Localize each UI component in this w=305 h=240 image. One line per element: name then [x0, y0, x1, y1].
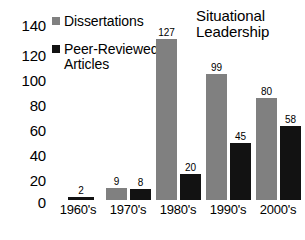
x-label-1980s: 1980's [154, 203, 202, 217]
bar-1970s-dissertations: 9 [106, 188, 127, 200]
x-label-1990s: 1990's [204, 203, 252, 217]
bar-value-1970s-peer-reviewed: 8 [138, 178, 144, 188]
x-label-2000s: 2000's [254, 203, 302, 217]
x-axis: 1960's 1970's 1980's 1990's 2000's [54, 203, 302, 223]
y-tick-60: 60 [0, 123, 46, 138]
y-tick-20: 20 [0, 173, 46, 188]
bar-chart: Situational Leadership 140 120 100 80 60… [0, 0, 305, 240]
bar-value-2000s-peer-reviewed: 58 [285, 115, 296, 125]
y-tick-0: 0 [0, 195, 46, 210]
plot-area: 2 9 8 127 20 99 45 [54, 22, 302, 200]
bar-1980s-dissertations: 127 [156, 39, 177, 200]
bar-1960s-peer-reviewed: 2 [68, 197, 94, 200]
y-axis: 140 120 100 80 60 40 20 0 [0, 0, 52, 240]
y-tick-120: 120 [0, 48, 46, 63]
x-label-1970s: 1970's [104, 203, 152, 217]
bar-1970s-peer-reviewed: 8 [130, 189, 151, 200]
bar-value-1980s-dissertations: 127 [158, 28, 175, 38]
bar-value-1990s-peer-reviewed: 45 [235, 132, 246, 142]
y-tick-100: 100 [0, 73, 46, 88]
bar-value-1970s-dissertations: 9 [114, 177, 120, 187]
bar-value-2000s-dissertations: 80 [261, 87, 272, 97]
x-label-1960s: 1960's [54, 203, 102, 217]
bar-2000s-peer-reviewed: 58 [280, 126, 301, 200]
bar-value-1990s-dissertations: 99 [211, 63, 222, 73]
bar-group-1960s: 2 [54, 22, 102, 200]
y-tick-140: 140 [0, 18, 46, 33]
bar-group-1970s: 9 8 [104, 22, 152, 200]
bar-1980s-peer-reviewed: 20 [180, 174, 201, 200]
bar-1990s-peer-reviewed: 45 [230, 143, 251, 200]
bar-group-1980s: 127 20 [154, 22, 202, 200]
bar-value-1960s-peer-reviewed: 2 [78, 186, 84, 196]
y-tick-80: 80 [0, 98, 46, 113]
bar-1990s-dissertations: 99 [206, 74, 227, 200]
y-tick-40: 40 [0, 148, 46, 163]
bar-value-1980s-peer-reviewed: 20 [185, 163, 196, 173]
bar-2000s-dissertations: 80 [256, 98, 277, 200]
bar-group-2000s: 80 58 [254, 22, 302, 200]
bar-group-1990s: 99 45 [204, 22, 252, 200]
